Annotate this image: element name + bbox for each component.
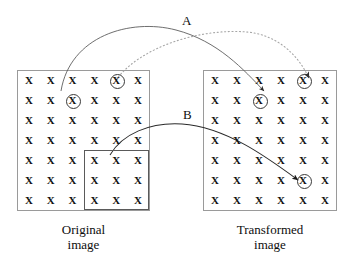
x-marker-glyph: X: [112, 135, 120, 146]
x-marker-glyph: X: [25, 135, 33, 146]
original-cell-r3-c3: X: [62, 111, 84, 131]
transformed-cell-r3-c1: X: [204, 111, 226, 131]
x-marker-glyph: X: [47, 155, 55, 166]
original-image-panel: XXXXXXXXXXXXXXXXXXXXXXXXXXXXXXXXXXXXXXXX…: [17, 70, 150, 211]
transformed-cell-r5-c1: X: [204, 150, 226, 170]
x-marker-glyph: X: [211, 155, 219, 166]
x-marker-glyph: X: [299, 175, 307, 186]
x-marker-glyph: X: [69, 175, 77, 186]
x-marker-glyph: X: [277, 135, 285, 146]
x-marker-glyph: X: [299, 195, 307, 206]
original-cell-r4-c6: X: [127, 131, 149, 151]
original-cell-r3-c4: X: [84, 111, 106, 131]
x-marker-glyph: X: [211, 75, 219, 86]
original-cell-r2-c6: X: [127, 91, 149, 111]
transformed-cell-r2-c6: X: [314, 91, 336, 111]
original-cell-r5-c2: X: [40, 150, 62, 170]
x-marker-glyph: X: [277, 75, 285, 86]
x-marker-glyph: X: [69, 95, 77, 106]
original-cell-r7-c1: X: [18, 190, 40, 210]
x-marker-glyph: X: [255, 135, 263, 146]
figure-root: XXXXXXXXXXXXXXXXXXXXXXXXXXXXXXXXXXXXXXXX…: [0, 0, 352, 277]
transformed-image-panel: XXXXXXXXXXXXXXXXXXXXXXXXXXXXXXXXXXXXXXXX…: [203, 70, 337, 211]
transformed-cell-r3-c2: X: [226, 111, 248, 131]
x-marker-glyph: X: [233, 135, 241, 146]
x-marker-glyph: X: [277, 195, 285, 206]
caption-line-2: image: [17, 237, 150, 252]
original-cell-r2-c3: X: [62, 91, 84, 111]
original-cell-r1-c5: X: [105, 71, 127, 91]
transformed-cell-r6-c4: X: [270, 170, 292, 190]
x-marker-glyph: X: [299, 95, 307, 106]
x-marker-glyph: X: [255, 75, 263, 86]
x-marker-glyph: X: [321, 75, 329, 86]
original-cell-r5-c3: X: [62, 150, 84, 170]
x-marker-glyph: X: [277, 95, 285, 106]
x-marker-glyph: X: [211, 175, 219, 186]
x-marker-glyph: X: [211, 195, 219, 206]
original-cell-r2-c1: X: [18, 91, 40, 111]
original-cell-r7-c2: X: [40, 190, 62, 210]
x-marker-glyph: X: [321, 95, 329, 106]
transformed-cell-r1-c4: X: [270, 71, 292, 91]
x-marker-glyph: X: [211, 115, 219, 126]
x-marker-glyph: X: [47, 75, 55, 86]
x-marker-glyph: X: [112, 95, 120, 106]
transformed-cell-r3-c6: X: [314, 111, 336, 131]
original-cell-r4-c4: X: [84, 131, 106, 151]
x-marker-glyph: X: [47, 95, 55, 106]
x-marker-glyph: X: [255, 195, 263, 206]
x-marker-glyph: X: [90, 95, 98, 106]
original-cell-r2-c4: X: [84, 91, 106, 111]
x-marker-glyph: X: [134, 115, 142, 126]
x-marker-glyph: X: [134, 135, 142, 146]
transformed-cell-r1-c2: X: [226, 71, 248, 91]
original-cell-r2-c5: X: [105, 91, 127, 111]
transformed-cell-r7-c6: X: [314, 190, 336, 210]
caption-line-2: image: [203, 237, 337, 252]
x-marker-glyph: X: [321, 115, 329, 126]
original-cell-r4-c3: X: [62, 131, 84, 151]
selection-box: [84, 150, 150, 210]
x-marker-glyph: X: [90, 115, 98, 126]
x-marker-glyph: X: [90, 135, 98, 146]
x-marker-glyph: X: [277, 115, 285, 126]
arc-label-b: B: [183, 108, 192, 121]
x-marker-glyph: X: [25, 95, 33, 106]
x-marker-glyph: X: [277, 155, 285, 166]
x-marker-glyph: X: [112, 75, 120, 86]
x-marker-glyph: X: [321, 195, 329, 206]
transformed-cell-r6-c6: X: [314, 170, 336, 190]
transformed-cell-r4-c3: X: [248, 131, 270, 151]
x-marker-glyph: X: [69, 195, 77, 206]
x-marker-glyph: X: [233, 75, 241, 86]
x-marker-glyph: X: [134, 75, 142, 86]
x-marker-glyph: X: [25, 115, 33, 126]
transformed-cell-r1-c3: X: [248, 71, 270, 91]
original-cell-r1-c1: X: [18, 71, 40, 91]
x-marker-glyph: X: [211, 95, 219, 106]
transformed-cell-r3-c5: X: [292, 111, 314, 131]
original-cell-r6-c1: X: [18, 170, 40, 190]
x-marker-glyph: X: [233, 195, 241, 206]
transformed-cell-r1-c1: X: [204, 71, 226, 91]
x-marker-glyph: X: [69, 155, 77, 166]
x-marker-glyph: X: [25, 175, 33, 186]
x-marker-glyph: X: [25, 195, 33, 206]
transformed-cell-r5-c5: X: [292, 150, 314, 170]
x-marker-glyph: X: [299, 155, 307, 166]
arc-label-a: A: [182, 14, 191, 27]
original-cell-r2-c2: X: [40, 91, 62, 111]
transformed-cell-r6-c2: X: [226, 170, 248, 190]
transformed-cell-r7-c3: X: [248, 190, 270, 210]
transformed-cell-r7-c2: X: [226, 190, 248, 210]
transformed-cell-r6-c5: X: [292, 170, 314, 190]
x-marker-glyph: X: [47, 195, 55, 206]
transformed-cell-r2-c5: X: [292, 91, 314, 111]
transformed-cell-r5-c6: X: [314, 150, 336, 170]
caption-line-1: Original: [17, 222, 150, 237]
transformed-cell-r7-c4: X: [270, 190, 292, 210]
x-marker-glyph: X: [90, 75, 98, 86]
x-marker-glyph: X: [255, 155, 263, 166]
original-cell-r7-c3: X: [62, 190, 84, 210]
